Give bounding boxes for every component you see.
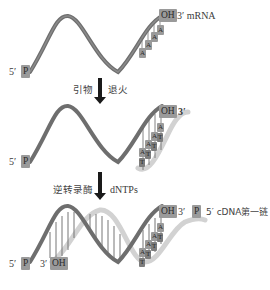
phosphate-box: P — [21, 65, 30, 78]
five-prime-label: 5′ — [9, 258, 16, 270]
cdna-three-prime-label: 3′ — [40, 258, 47, 270]
phosphate-box: P — [21, 257, 30, 270]
base-t: T — [151, 242, 157, 251]
three-prime-label: 3′ — [178, 106, 186, 118]
reverse-transcriptase-label: 逆转录酶 — [53, 184, 93, 196]
cdna-hydroxyl-box: OH — [50, 257, 68, 270]
five-prime-label: 5′ — [9, 66, 16, 78]
hydroxyl-box: OH — [159, 105, 177, 118]
arrow-down-icon — [94, 78, 106, 104]
five-prime-label: 5′ — [9, 156, 16, 168]
base-t: T — [157, 133, 163, 142]
base-t: T — [145, 150, 151, 159]
base-t: T — [139, 158, 145, 167]
primer-label: 引物 — [73, 84, 93, 96]
base-a: A — [157, 123, 164, 132]
cdna-phosphate-box: P — [192, 205, 201, 218]
hydroxyl-box: OH — [159, 205, 177, 218]
cdna-synthesis-diagram: 5′ P OH 3′ mRNA A A A A 引物 退火 5′ P OH 3′… — [0, 0, 270, 290]
arrow-down-icon — [94, 172, 106, 200]
base-t: T — [145, 250, 151, 259]
diagram-graphics — [0, 0, 270, 290]
hydroxyl-box: OH — [159, 9, 177, 22]
phosphate-box: P — [21, 155, 30, 168]
base-a: A — [157, 223, 164, 232]
annealing-label: 退火 — [108, 84, 128, 96]
base-t: T — [157, 233, 163, 242]
base-t: T — [151, 142, 157, 151]
cdna-first-strand-label: 5′ cDNA第一链 — [206, 206, 268, 218]
base-t: T — [139, 258, 145, 267]
three-prime-label: 3′ — [178, 206, 185, 218]
dntps-label: dNTPs — [110, 184, 138, 196]
mrna-three-prime-label: 3′ mRNA — [177, 10, 216, 22]
polya-base: A — [157, 25, 164, 35]
